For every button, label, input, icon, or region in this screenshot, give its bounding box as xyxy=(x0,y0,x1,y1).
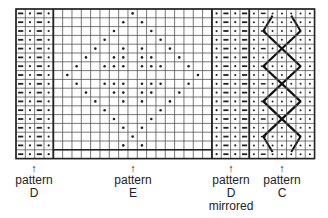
label-line: mirrored xyxy=(196,200,266,213)
label-line: E xyxy=(98,187,168,200)
pattern-label: ↑patternE xyxy=(98,163,168,200)
pattern-label: ↑patternD xyxy=(0,163,69,200)
label-line: C xyxy=(247,187,317,200)
pattern-label: ↑patternC xyxy=(247,163,317,200)
label-line: D xyxy=(0,187,69,200)
